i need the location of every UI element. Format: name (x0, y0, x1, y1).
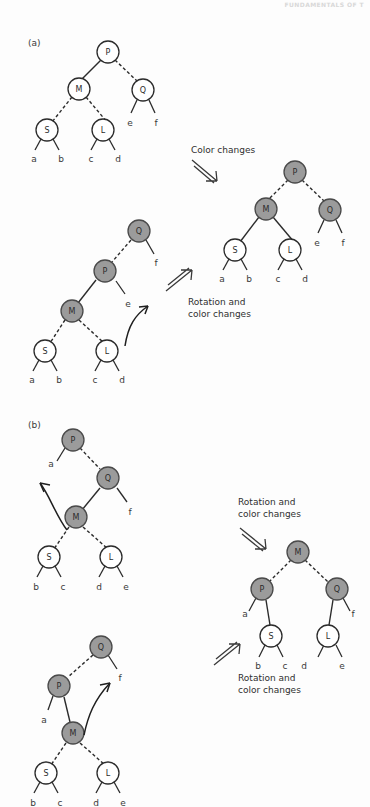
leaf-e-label: e (123, 582, 129, 592)
stem-b (259, 645, 265, 657)
node-Q-label: Q (98, 643, 104, 652)
edge-M-L (86, 97, 107, 122)
arrow-double-line-down-right (240, 528, 266, 551)
stem-a (223, 259, 229, 270)
node-M-label: M (76, 85, 83, 94)
edge-P-Q (80, 448, 100, 469)
stem-f (117, 488, 127, 502)
node-M-label: M (70, 729, 77, 738)
node-Q-label: Q (334, 585, 340, 594)
node-L-label: L (288, 246, 293, 255)
edge-M-S (50, 320, 65, 343)
leaf-a-label: a (41, 715, 47, 725)
edge-P-M (267, 180, 288, 201)
edge-M-L (273, 217, 294, 242)
edge-Q-P (68, 655, 93, 677)
leaf-e-label: e (339, 661, 345, 671)
node-S-label: S (43, 769, 48, 778)
node-S-label: S (44, 126, 49, 135)
node-S-label: S (232, 246, 237, 255)
stem-e (318, 220, 324, 233)
stem-f (108, 655, 117, 669)
leaf-a-label: a (219, 274, 225, 284)
stem-c (55, 566, 61, 577)
leaf-c-label: c (58, 798, 63, 807)
figure-canvas: P M Q S L a b c d e f (0, 0, 370, 807)
edge-Q-L (329, 600, 333, 625)
tree-a-before-2: Q P M S L f e a b c d (29, 220, 158, 385)
leaf-b-label: b (33, 582, 39, 592)
leaf-b-label: b (30, 798, 36, 807)
arrow-double-line-down-right (192, 160, 217, 183)
arrow-rotation-color-b1 (240, 528, 266, 551)
stem-d (96, 782, 102, 793)
stem-e (117, 566, 123, 577)
edge-Q-M (82, 488, 100, 510)
stem-a (57, 448, 65, 461)
edge-M-S (51, 743, 66, 765)
node-M-label: M (263, 205, 270, 214)
leaf-c-label: c (89, 154, 94, 164)
node-L-label: L (106, 769, 111, 778)
stem-b (241, 259, 247, 270)
stem-c (277, 645, 283, 657)
stem-d (113, 360, 119, 371)
tree-b-before-2: Q P M S L f a b c d e (30, 636, 126, 807)
leaf-d-label: d (301, 661, 307, 671)
leaf-d-label: d (115, 154, 121, 164)
node-Q-label: Q (140, 86, 146, 95)
stem-c (91, 139, 97, 150)
edge-P-S (266, 600, 270, 625)
stem-f (149, 100, 155, 113)
edge-Q-P (112, 240, 131, 262)
edge-M-Q (305, 560, 328, 582)
edge-M-L (79, 320, 104, 343)
leaf-a-label: a (29, 375, 35, 385)
node-M-label: M (69, 307, 76, 316)
arrow-double-line-up-right (214, 642, 240, 665)
stem-c (95, 360, 101, 371)
leaf-a-label: a (31, 154, 37, 164)
stem-a (249, 598, 256, 611)
node-Q-label: Q (327, 206, 333, 215)
stem-e (116, 281, 125, 294)
stem-a (33, 360, 39, 371)
leaf-f-label: f (351, 609, 355, 619)
leaf-d-label: d (96, 582, 102, 592)
arrow-rotation-color-a (166, 268, 192, 291)
leaf-b-label: b (58, 154, 64, 164)
stem-b (53, 139, 59, 150)
leaf-c-label: c (283, 661, 288, 671)
leaf-a-label: a (48, 459, 54, 469)
edge-P-Q (115, 60, 138, 82)
leaf-b-label: b (246, 274, 252, 284)
leaf-e-label: e (125, 299, 131, 309)
arrow-double-line-up-right (166, 268, 192, 291)
stem-f (146, 240, 154, 254)
leaf-e-label: e (127, 118, 133, 128)
leaf-f-label: f (128, 507, 132, 517)
edge-P-M (64, 697, 70, 722)
node-P-label: P (293, 168, 298, 177)
stem-f (336, 220, 342, 233)
leaf-c-label: c (276, 274, 281, 284)
tree-b-after: M P Q S L a f b c d e (242, 541, 355, 671)
stem-d (109, 139, 115, 150)
edge-M-S (52, 97, 72, 122)
edge-M-P (270, 560, 291, 581)
stem-e (114, 782, 120, 793)
tree-a-before-1: P M Q S L a b c d e f (31, 41, 158, 164)
leaf-d-label: d (93, 798, 99, 807)
rotation-curve-arrow (40, 483, 67, 530)
tree-a-after: P M Q S L a b c d e f (219, 161, 345, 284)
edge-P-M (78, 280, 96, 303)
stem-a (35, 139, 41, 150)
edge-P-M (80, 60, 101, 81)
node-P-label: P (260, 585, 265, 594)
leaf-e-label: e (314, 238, 320, 248)
stem-d (99, 566, 105, 577)
node-P-label: P (71, 436, 76, 445)
edge-M-L (80, 743, 105, 765)
stem-e (336, 645, 342, 657)
node-S-label: S (42, 347, 47, 356)
